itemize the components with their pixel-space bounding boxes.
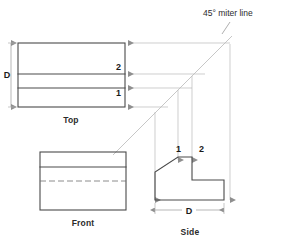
side-view-label: Side [181,227,200,237]
front-view-label: Front [72,218,95,228]
top-view-depth-label: D [4,70,11,80]
top-view-depth-dimension: D [4,43,16,107]
side-view-profile [155,157,224,200]
top-view-point-label-2: 2 [116,62,121,72]
top-view-label: Top [63,115,79,125]
side-view-group: 1 2 Side [155,144,224,237]
miter-line-group: 45° miter line [113,8,253,155]
miter-line-note: 45° miter line [203,8,253,18]
miter-line-45deg [113,36,232,155]
front-view-group: Front [40,152,126,228]
side-view-point-label-2: 2 [199,144,204,154]
side-view-point-label-1: 1 [176,144,181,154]
orthographic-projection-drawing: Top D 2 1 45° miter line [0,0,287,238]
top-view-group: Top [18,43,125,125]
horizontal-projection-lines [128,43,230,107]
side-view-width-dimension: D [155,203,224,216]
miter-leader-line [222,22,230,34]
side-view-width-label: D [186,206,193,216]
technical-drawing-figure: Top D 2 1 45° miter line [0,0,287,238]
top-view-outline [18,43,125,107]
top-view-point-label-1: 1 [116,88,121,98]
